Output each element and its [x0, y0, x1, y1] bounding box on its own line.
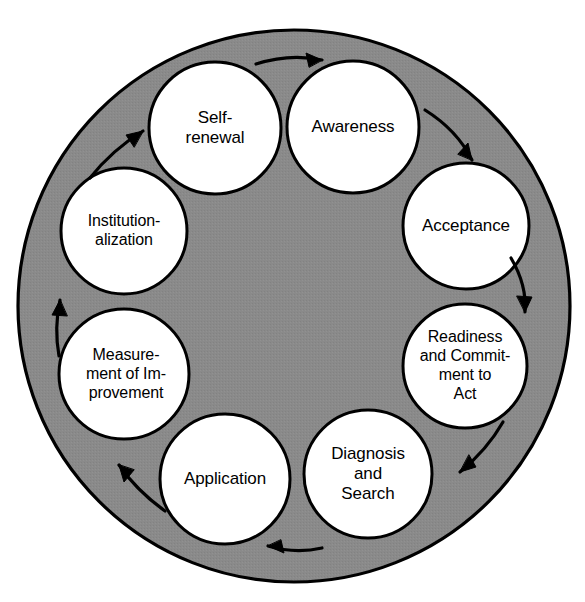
node-circle-institutionalization[interactable] — [61, 168, 187, 294]
node-circle-application[interactable] — [160, 414, 290, 544]
diagram-canvas — [0, 0, 585, 602]
cycle-diagram: Self- renewal Awareness Acceptance Readi… — [0, 0, 585, 602]
node-circle-awareness[interactable] — [287, 61, 419, 193]
node-circle-readiness-commitment[interactable] — [403, 304, 527, 428]
node-circle-acceptance[interactable] — [403, 163, 529, 289]
node-circle-self-renewal[interactable] — [149, 62, 281, 194]
node-circle-diagnosis-search[interactable] — [304, 410, 432, 538]
node-circle-measurement-improvement[interactable] — [59, 309, 189, 439]
